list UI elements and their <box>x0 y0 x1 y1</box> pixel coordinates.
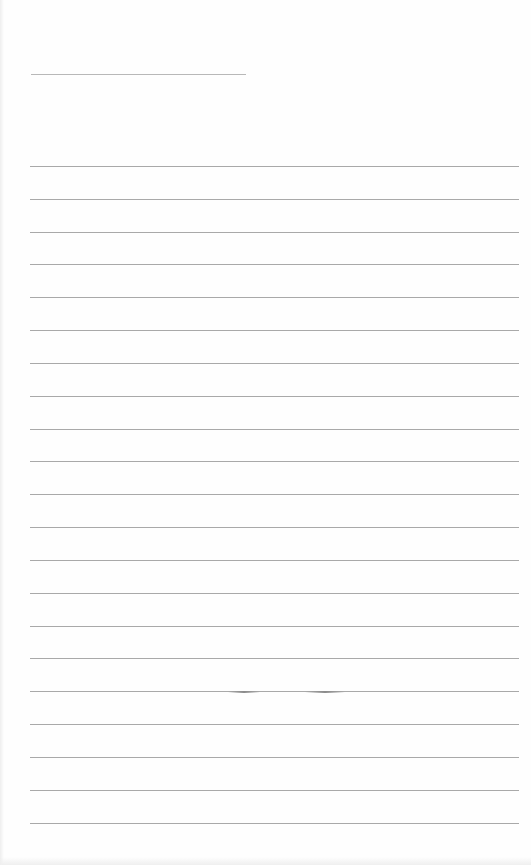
ruled-line <box>30 527 519 528</box>
left-edge-shadow <box>0 0 4 865</box>
ruled-line <box>30 396 519 397</box>
ruled-line <box>30 724 519 725</box>
ruled-line <box>30 264 519 265</box>
ruled-line <box>30 199 519 200</box>
ruled-line <box>30 330 519 331</box>
ruled-line <box>30 593 519 594</box>
smudge-mark <box>305 691 345 693</box>
ruled-line <box>30 790 519 791</box>
smudge-mark <box>228 691 260 693</box>
ruled-line <box>30 691 519 692</box>
ruled-line <box>30 363 519 364</box>
ruled-line <box>30 297 519 298</box>
bottom-edge-shadow <box>0 857 531 865</box>
ruled-line <box>30 560 519 561</box>
ruled-line <box>30 429 519 430</box>
ruled-line <box>30 823 519 824</box>
ruled-line <box>30 757 519 758</box>
ruled-line <box>30 626 519 627</box>
ruled-line <box>30 166 519 167</box>
ruled-line <box>30 461 519 462</box>
title-line <box>31 74 246 75</box>
ruled-line <box>30 658 519 659</box>
ruled-line <box>30 494 519 495</box>
ruled-line <box>30 232 519 233</box>
lined-paper-sheet <box>0 0 531 865</box>
